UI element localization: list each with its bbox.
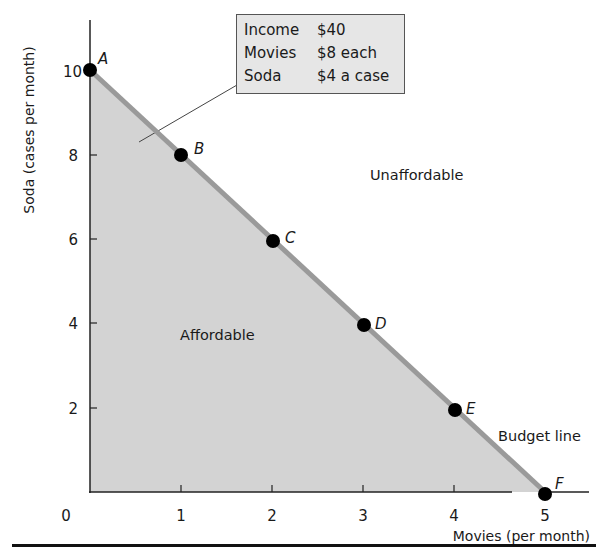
label-e: E bbox=[466, 400, 476, 418]
y-tick-8: 8 bbox=[68, 147, 78, 165]
x-tick-5: 5 bbox=[540, 507, 550, 525]
legend-value: $8 each bbox=[317, 42, 377, 65]
legend-key: Movies bbox=[244, 42, 317, 65]
point-a bbox=[83, 63, 97, 77]
legend-row-soda: Soda $4 a case bbox=[244, 65, 404, 88]
bottom-rule bbox=[12, 544, 596, 547]
legend-row-movies: Movies $8 each bbox=[244, 42, 404, 65]
x-axis-title: Movies (per month) bbox=[453, 528, 590, 544]
unaffordable-label: Unaffordable bbox=[370, 167, 464, 183]
label-b: B bbox=[194, 140, 204, 158]
label-d: D bbox=[375, 315, 387, 333]
label-f: F bbox=[555, 475, 564, 493]
x-tick-0: 0 bbox=[61, 507, 71, 525]
x-tick-3: 3 bbox=[358, 507, 368, 525]
point-f bbox=[538, 487, 552, 501]
y-axis-title: Soda (cases per month) bbox=[21, 46, 37, 213]
x-tick-1: 1 bbox=[176, 507, 186, 525]
legend-key: Soda bbox=[244, 65, 317, 88]
label-a: A bbox=[97, 50, 108, 68]
point-c bbox=[266, 234, 280, 248]
label-c: C bbox=[285, 229, 296, 247]
y-tick-4: 4 bbox=[68, 315, 78, 333]
y-tick-10: 10 bbox=[63, 63, 82, 81]
legend-connector bbox=[139, 85, 237, 142]
budget-line-label: Budget line bbox=[498, 428, 581, 444]
legend-value: $40 bbox=[317, 19, 346, 42]
legend-value: $4 a case bbox=[317, 65, 389, 88]
y-tick-2: 2 bbox=[68, 400, 78, 418]
point-b bbox=[174, 148, 188, 162]
legend-key: Income bbox=[244, 19, 317, 42]
legend-box: Income $40 Movies $8 each Soda $4 a case bbox=[236, 14, 405, 94]
legend-row-income: Income $40 bbox=[244, 19, 404, 42]
point-d bbox=[357, 318, 371, 332]
y-tick-6: 6 bbox=[68, 231, 78, 249]
x-tick-4: 4 bbox=[449, 507, 459, 525]
point-e bbox=[448, 403, 462, 417]
x-tick-2: 2 bbox=[267, 507, 277, 525]
affordable-label: Affordable bbox=[180, 327, 255, 343]
